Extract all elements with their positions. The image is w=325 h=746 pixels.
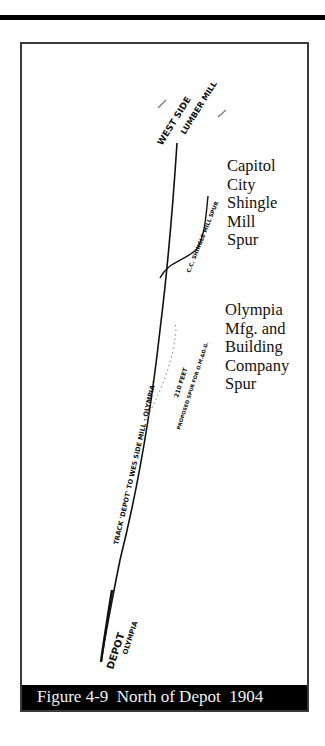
olympia-mfg-spur-label: Olympia Mfg. and Building Company Spur: [225, 301, 289, 394]
figure-caption: Figure 4-9 North of Depot 1904: [37, 687, 263, 707]
caption-bar: Figure 4-9 North of Depot 1904: [22, 685, 307, 710]
capitol-city-spur-label: Capitol City Shingle Mill Spur: [227, 157, 277, 250]
